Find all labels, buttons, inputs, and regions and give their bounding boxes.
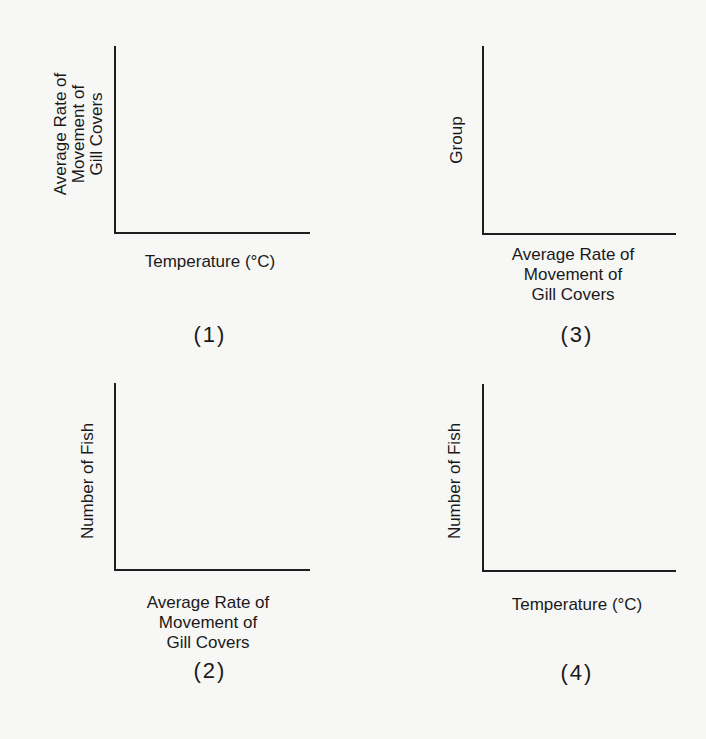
graph-number: (4) xyxy=(527,660,627,686)
y-axis-label: Group xyxy=(448,100,466,180)
y-axis-label: Number of Fish xyxy=(446,396,464,566)
y-axis-label: Number of Fish xyxy=(79,396,97,566)
graph-number: (2) xyxy=(160,658,260,684)
x-axis-label: Average Rate of Movement of Gill Covers xyxy=(98,593,318,653)
y-axis-line xyxy=(482,384,484,572)
x-axis-line xyxy=(114,232,310,234)
y-axis-line xyxy=(114,383,116,571)
graph-number: (3) xyxy=(527,322,627,348)
x-axis-line xyxy=(482,233,676,235)
x-axis-label: Average Rate of Movement of Gill Covers xyxy=(463,245,683,305)
y-axis-line xyxy=(482,46,484,235)
x-axis-line xyxy=(482,570,676,572)
graph-number: (1) xyxy=(160,322,260,348)
x-axis-label: Temperature (°C) xyxy=(100,252,320,272)
x-axis-label: Temperature (°C) xyxy=(467,595,687,615)
y-axis-line xyxy=(114,46,116,234)
x-axis-line xyxy=(114,569,310,571)
y-axis-label: Average Rate of Movement of Gill Covers xyxy=(52,44,106,224)
